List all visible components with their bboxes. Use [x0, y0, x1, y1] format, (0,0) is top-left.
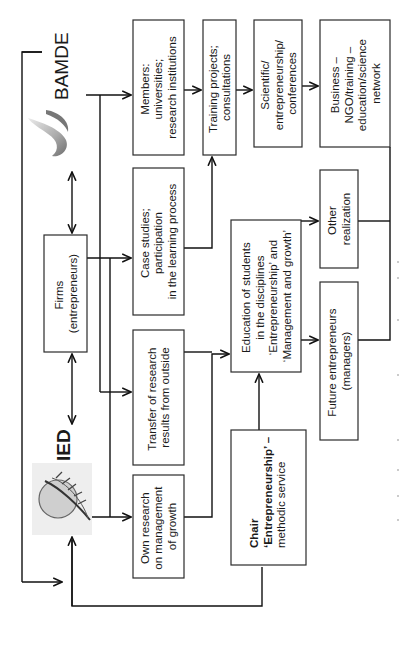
- case-studies-line-2: participation: [152, 212, 164, 274]
- ied-label: IED: [53, 429, 74, 461]
- right-collector-future: [358, 147, 390, 340]
- members-box: Members: universities; research institut…: [133, 20, 184, 155]
- future-entrepreneurs-box: Future entrepreneurs (managers): [320, 282, 358, 440]
- scientific-line-3: conferences: [286, 52, 298, 115]
- firms-box: Firms (entrepreneurs): [44, 235, 87, 352]
- business-line-3: education/science: [356, 39, 368, 131]
- transfer-line-2: results from outside: [159, 347, 171, 447]
- other-line-1: Other: [326, 206, 338, 235]
- training-box: Training projects; consultations: [203, 20, 236, 155]
- bamde-logo: BAMDE: [28, 32, 72, 156]
- chair-box: Chair ‘Entrepreneurship’ – methodic serv…: [231, 430, 306, 565]
- future-line-1: Future entrepreneurs: [326, 308, 338, 416]
- ied-logo: IED: [32, 429, 92, 535]
- firms-line-2: (entrepreneurs): [67, 254, 79, 333]
- education-line-2: in the disciplines: [254, 255, 266, 340]
- case-studies-line-3: in the learning process: [166, 183, 178, 299]
- firms-line-1: Firms: [53, 280, 65, 309]
- case-studies-line-1: Case studies;: [139, 208, 151, 278]
- scientific-line-2: entrepreneurship/: [273, 39, 285, 130]
- scientific-box: Scientific/ entrepreneurship/ conference…: [254, 20, 302, 147]
- bamde-label: BAMDE: [51, 32, 72, 100]
- members-line-3: research institutions: [166, 36, 178, 139]
- training-line-2: consultations: [220, 54, 232, 121]
- case-studies-box: Case studies; participation in the learn…: [133, 168, 184, 315]
- education-line-3: ‘Entrepreneurship’ and: [267, 240, 279, 355]
- case-training-arrow: [184, 157, 212, 248]
- education-line-1: Education of students: [240, 242, 252, 353]
- own-research-box: Own research on management of growth: [133, 475, 184, 578]
- chair-line-3: methodic service: [275, 462, 287, 548]
- members-line-2: universities;: [152, 59, 164, 120]
- own-research-line-2: on management: [152, 486, 164, 570]
- own-research-line-3: of growth: [166, 503, 178, 550]
- training-line-1: Training projects;: [207, 45, 219, 133]
- future-line-2: (managers): [340, 331, 352, 390]
- scientific-line-1: Scientific/: [259, 60, 271, 110]
- swoosh-logo-icon: [28, 110, 68, 156]
- transfer-line-1: Transfer of research: [146, 348, 158, 451]
- other-line-2: realization: [340, 193, 352, 245]
- entrepreneurship-flow-diagram: BAMDE IED: [0, 0, 408, 654]
- business-box: Business – NGO/training – education/scie…: [320, 20, 390, 147]
- business-line-2: NGO/training –: [343, 46, 355, 123]
- other-realization-box: Other realization: [320, 170, 358, 268]
- transfer-box: Transfer of research results from outsid…: [133, 330, 184, 465]
- business-line-1: Business –: [329, 56, 341, 113]
- svg-text:Transfer of research res: Transfer of research results from outsid…: [146, 344, 172, 450]
- svg-text:Training projects; consu: Training projects; consultations: [207, 42, 233, 133]
- research-education-arrow: [184, 354, 229, 517]
- education-line-4: ‘Management and growth’: [281, 230, 293, 362]
- svg-text:Education of students in: Education of students in the disciplines…: [240, 230, 293, 362]
- chair-line-1: Chair: [248, 518, 260, 548]
- education-box: Education of students in the disciplines…: [231, 220, 301, 372]
- caption-remnant: [397, 261, 399, 521]
- business-line-4: network: [370, 63, 382, 104]
- chair-line-2: ‘Entrepreneurship’ –: [262, 436, 274, 548]
- own-research-line-1: Own research: [139, 492, 151, 564]
- members-line-1: Members:: [139, 64, 151, 115]
